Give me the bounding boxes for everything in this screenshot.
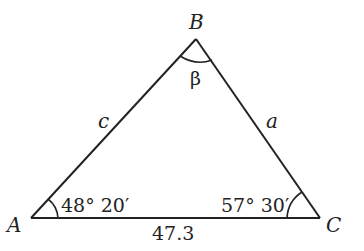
side-c — [31, 39, 196, 218]
vertex-label-c: C — [326, 213, 341, 237]
angle-label-c: 57° 30′ — [221, 194, 289, 216]
side-label-c: c — [98, 109, 109, 133]
side-a — [196, 39, 320, 218]
angle-arc-a — [48, 199, 58, 218]
vertex-label-b: B — [188, 10, 204, 34]
side-label-b: 47.3 — [152, 222, 194, 244]
angle-label-a: 48° 20′ — [61, 194, 129, 216]
side-label-a: a — [266, 109, 278, 133]
angle-arc-c — [287, 192, 302, 218]
triangle-diagram: B β c a A 48° 20′ 57° 30′ C 47.3 — [0, 0, 364, 251]
vertex-label-a: A — [5, 213, 21, 237]
angle-arc-b — [180, 56, 212, 62]
angle-label-b: β — [190, 67, 201, 89]
